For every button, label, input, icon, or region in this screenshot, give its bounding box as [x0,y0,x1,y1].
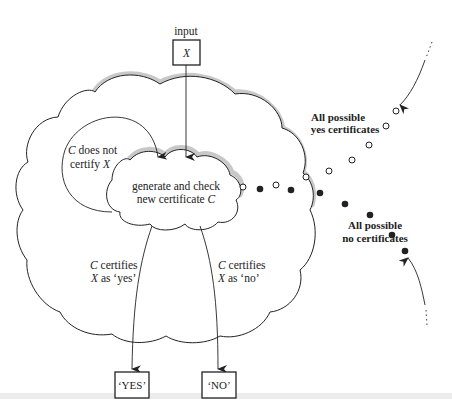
yes-stream-continuation [426,42,432,58]
inner-cloud-line1: generate and check [132,180,220,193]
no-certificates-line1: All possible [348,219,402,231]
no-certificates-line2: no certificates [342,232,408,244]
yes-output-label: ‘YES’ [118,379,146,391]
no-branch-line1: C certifies [218,259,266,271]
no-output-label: ‘NO’ [207,379,230,391]
yes-certificates-line2: yes certificates [311,123,380,135]
no-branch-line2: X as ‘no’ [217,272,260,284]
loop-label-line2: certify X [70,158,111,171]
yes-branch-line1: C certifies [90,259,138,271]
yes-branch-line2: X as ‘yes’ [90,272,136,285]
no-stream-continuation [426,310,427,325]
yes-certificates-line1: All possible [311,111,365,123]
inner-cloud-line2: new certificate C [137,193,216,205]
input-label: input [174,25,198,38]
certificate-search-diagram: input X C does not certify X generate an… [0,0,452,420]
no-stream-arrow [408,258,425,305]
yes-stream-arrow [400,60,425,105]
input-variable: X [182,47,191,59]
loop-label-line1: C does not [68,144,118,156]
